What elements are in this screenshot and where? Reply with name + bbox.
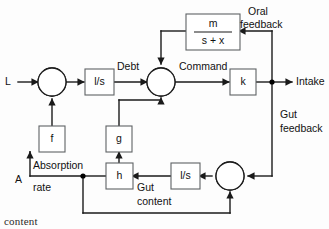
label-gut-feedback-line1: Gut [280, 108, 297, 120]
label-absorption-line2: rate [33, 181, 51, 193]
label-gut-content-line1: Gut [137, 181, 154, 193]
block-gain-k[interactable]: k [230, 69, 256, 95]
block-gain-k-label: k [240, 75, 246, 87]
block-oral-lag-denominator: s + x [202, 34, 225, 46]
block-integrator-2[interactable]: l/s [171, 163, 200, 189]
block-integrator-1[interactable]: l/s [85, 69, 114, 95]
block-diagram-svg: l/s k f g h l/s m [0, 0, 329, 229]
label-debt: Debt [117, 60, 139, 72]
wire-layer [18, 31, 292, 213]
block-gain-g[interactable]: g [106, 126, 132, 152]
label-command: Command [179, 60, 228, 72]
summing-junction-2 [147, 68, 175, 96]
block-diagram-canvas: l/s k f g h l/s m [0, 0, 329, 229]
label-gut-feedback-line2: feedback [280, 122, 323, 134]
label-input-a: A [15, 173, 22, 185]
block-gain-h[interactable]: h [106, 163, 133, 189]
label-intake: Intake [296, 75, 325, 87]
block-oral-lag[interactable]: m s + x [186, 14, 240, 50]
label-oral-feedback-line2: feedback [240, 18, 283, 30]
label-absorption-line1: Absorption [33, 159, 83, 171]
summing-junction-3 [216, 162, 244, 190]
block-gain-f[interactable]: f [39, 126, 65, 152]
summing-junction-1 [38, 68, 66, 96]
junction-dot-absorption [80, 173, 85, 178]
block-integrator-1-label: l/s [94, 75, 105, 87]
block-gain-f-label: f [51, 132, 54, 144]
junction-dot-intake [269, 79, 274, 84]
block-oral-lag-numerator: m [209, 17, 218, 29]
block-integrator-2-label: l/s [180, 169, 191, 181]
label-gut-content-line2: content [137, 195, 172, 207]
label-oral-feedback-line1: Oral [248, 5, 268, 17]
block-gain-g-label: g [116, 132, 122, 144]
label-input-l: L [5, 75, 11, 87]
block-gain-h-label: h [117, 169, 123, 181]
